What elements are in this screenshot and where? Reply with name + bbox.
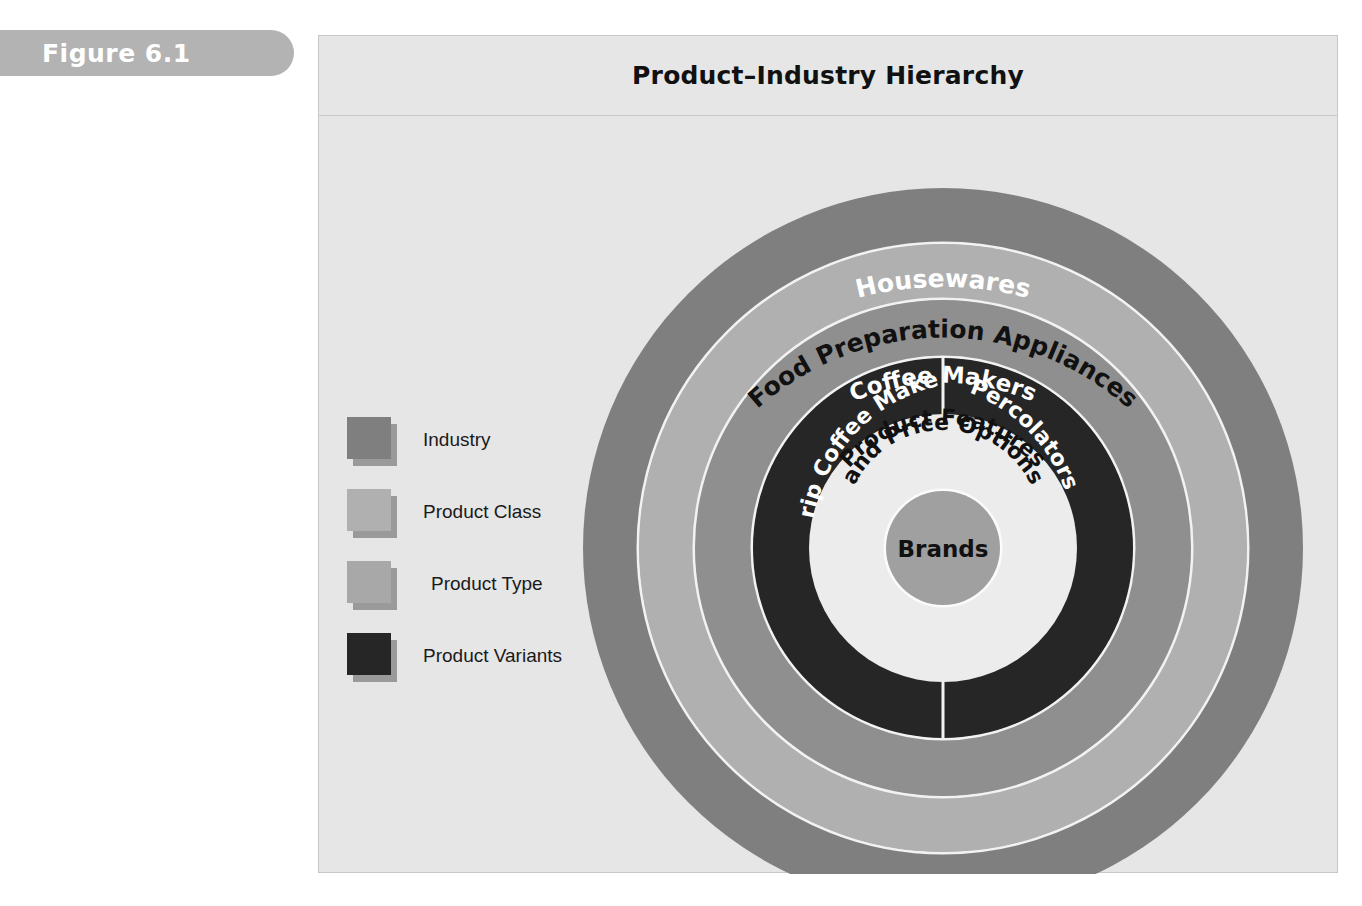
figure-header: Product–Industry Hierarchy (319, 36, 1337, 116)
figure-panel: Product–Industry Hierarchy Industry Prod… (318, 35, 1338, 873)
ring-diagram-svg: Housewares Food Preparation Appliances C… (319, 117, 1339, 874)
figure-body: Industry Product Class Product Type (319, 117, 1337, 872)
hierarchy-ring-diagram: Housewares Food Preparation Appliances C… (319, 117, 1339, 874)
figure-title: Product–Industry Hierarchy (632, 61, 1024, 90)
figure-number-label: Figure 6.1 (42, 39, 191, 68)
figure-number-tab: Figure 6.1 (0, 30, 294, 76)
ring-label-brands: Brands (898, 536, 989, 562)
